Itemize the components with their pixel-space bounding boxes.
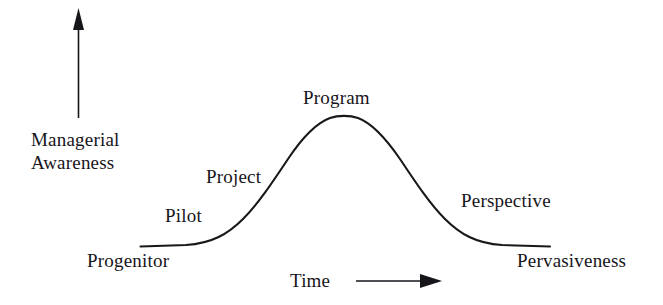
stage-label-pilot: Pilot	[165, 205, 202, 227]
y-axis-label: Managerial Awareness	[31, 128, 120, 174]
stage-label-program: Program	[303, 87, 370, 109]
stage-label-pervasiveness: Pervasiveness	[517, 250, 626, 272]
stage-label-progenitor: Progenitor	[87, 250, 169, 272]
horizontal-axis-arrow	[356, 274, 442, 288]
y-axis-label-line-2: Awareness	[31, 151, 120, 174]
vertical-axis-arrow	[73, 8, 84, 118]
stage-label-project: Project	[206, 166, 261, 188]
bell-curve-path	[141, 116, 551, 247]
bell-curve-figure: Managerial Awareness Time Progenitor Pil…	[0, 0, 663, 305]
stage-label-perspective: Perspective	[461, 190, 551, 212]
x-axis-label: Time	[290, 270, 330, 292]
y-axis-label-line-1: Managerial	[31, 128, 120, 151]
